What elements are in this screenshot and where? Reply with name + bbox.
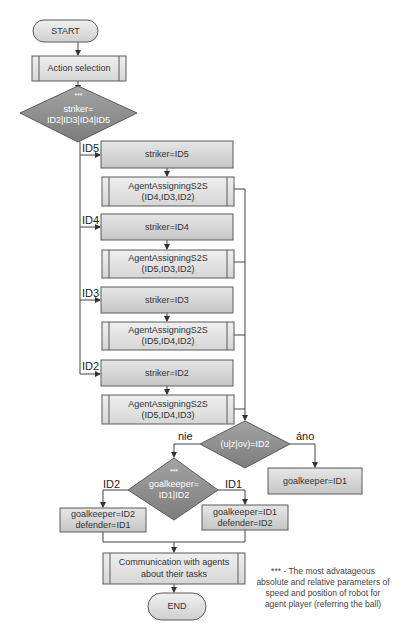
striker-decision-line1: striker= (20, 104, 137, 115)
uzov-decision-label: (u|z|ov)=ID2 (200, 439, 290, 450)
edge-label-yes: áno (296, 430, 314, 442)
assign-id5-line2: (ID4,ID3,ID2) (102, 192, 234, 203)
goalkeeper-decision-line1: goalkeeper= (128, 479, 220, 490)
communication-line1: Communication with agents (103, 557, 245, 568)
gk-id1-line2: defender=ID2 (202, 518, 288, 529)
footnote-line1: *** - The most advatageous (250, 566, 396, 577)
striker-id2-label: striker=ID2 (101, 368, 233, 379)
striker-id3-label: striker=ID3 (101, 295, 233, 306)
footnote: *** - The most advatageous absolute and … (250, 566, 396, 610)
footnote-line2: absolute and relative parameters of (250, 577, 396, 588)
striker-decision-line2: ID2|ID3|ID4|ID5 (20, 115, 137, 126)
footnote-line4: agent player (referring the ball) (250, 599, 396, 610)
footnote-line3: speed and position of robot for (250, 588, 396, 599)
gk-id2-line2: defender=ID1 (60, 520, 146, 531)
edge-label-id4: ID4 (82, 214, 99, 226)
edge-label-id5: ID5 (82, 142, 99, 154)
end-label: END (148, 601, 206, 612)
assign-id5-line1: AgentAssigningS2S (102, 181, 234, 192)
communication-line2: about their tasks (103, 569, 245, 580)
assign-id2-line1: AgentAssigningS2S (102, 399, 234, 410)
edge-label-no: nie (178, 430, 193, 442)
striker-id5-label: striker=ID5 (101, 149, 233, 160)
assign-id3-line1: AgentAssigningS2S (102, 325, 234, 336)
gk-id2-line1: goalkeeper=ID2 (60, 509, 146, 520)
striker-id4-label: striker=ID4 (101, 222, 233, 233)
assign-id3-line2: (ID5,ID4,ID2) (102, 336, 234, 347)
edge-label-id2: ID2 (82, 360, 99, 372)
goalkeeper-decision-marker: *** (128, 468, 220, 476)
gk-id1-line1: goalkeeper=ID1 (202, 507, 288, 518)
striker-decision-marker: *** (20, 92, 137, 100)
assign-id4-line2: (ID5,ID3,ID2) (102, 264, 234, 275)
action-selection-label: Action selection (32, 63, 126, 74)
edge-label-gk-id1: ID1 (225, 478, 242, 490)
edge-label-id3: ID3 (82, 287, 99, 299)
assign-id4-line1: AgentAssigningS2S (102, 253, 234, 264)
edge-label-gk-id2: ID2 (103, 478, 120, 490)
assign-id2-line2: (ID5,ID4,ID3) (102, 410, 234, 421)
start-label: START (33, 26, 98, 37)
goalkeeper-id1-direct-label: goalkeeper=ID1 (268, 476, 362, 487)
goalkeeper-decision-line2: ID1|ID2 (128, 490, 220, 501)
